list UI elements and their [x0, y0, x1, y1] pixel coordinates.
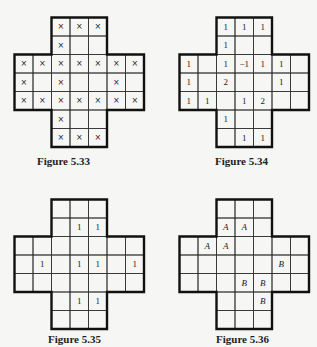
grid-cell-entry: × — [52, 73, 71, 92]
grid-cell-entry: × — [107, 55, 126, 74]
grid-cell-entry: 1 — [272, 73, 291, 92]
grid-cell-entry: × — [15, 55, 34, 74]
grid-cell-entry: B — [235, 274, 254, 293]
grid-cell-entry: 1 — [254, 129, 273, 148]
grid-cell-entry: B — [272, 255, 291, 274]
grid-cell-entry: × — [52, 110, 71, 129]
grid-cell-entry: × — [52, 36, 71, 55]
grid-cell-entry: 1 — [126, 255, 145, 274]
grid-cell-entry: 1 — [217, 36, 236, 55]
grid-cell-entry: × — [70, 18, 89, 37]
grid-cell-entry: 1 — [180, 73, 199, 92]
grid-cell-entry: 1 — [217, 18, 236, 37]
grid-cell-entry: × — [89, 92, 108, 111]
grid-cell-entry: 1 — [180, 55, 199, 74]
grid-cell-entry: × — [15, 73, 34, 92]
grid-cell-entry: 1 — [70, 292, 89, 311]
figure-caption: Figure 5.36 — [216, 333, 269, 345]
grid-cell-entry: 1 — [89, 255, 108, 274]
grid-cell-entry: 1 — [33, 255, 52, 274]
grid-cell-entry: 1 — [235, 18, 254, 37]
grid-cell-entry: 1 — [254, 18, 273, 37]
grid-cell-entry: A — [217, 237, 236, 256]
grid-cell-entry: × — [70, 55, 89, 74]
grid-cell-entry: × — [33, 92, 52, 111]
grid-cell-entry: A — [235, 218, 254, 237]
grid-cell-entry: 1 — [89, 292, 108, 311]
grid-cell-entry: × — [107, 92, 126, 111]
grid-cell-entry: × — [70, 92, 89, 111]
grid-cell-entry: 1 — [235, 92, 254, 111]
grid-cell-entry: × — [52, 55, 71, 74]
grid-cell-entry: × — [70, 129, 89, 148]
grid-cell-entry: × — [52, 92, 71, 111]
grid-cell-entry: 1 — [235, 129, 254, 148]
figure-caption: Figure 5.34 — [215, 155, 268, 167]
grid-cell-entry: × — [89, 18, 108, 37]
grid-cell-entry: 1 — [89, 218, 108, 237]
grid-cell-entry: 1 — [217, 55, 236, 74]
grid-cell-entry: 1 — [180, 92, 199, 111]
grid-cell-entry: × — [52, 129, 71, 148]
grid-cell-entry: 1 — [70, 218, 89, 237]
grid-cell-entry: A — [217, 218, 236, 237]
grid-cell-entry: × — [89, 55, 108, 74]
figure-caption: Figure 5.35 — [48, 333, 101, 345]
figure-caption: Figure 5.33 — [37, 155, 90, 167]
grid-cell-entry: A — [198, 237, 217, 256]
grid-cell-entry: 1 — [217, 110, 236, 129]
grid-cell-entry: 1 — [272, 55, 291, 74]
grid-cell-entry: × — [33, 55, 52, 74]
grid-cell-entry: 1 — [70, 255, 89, 274]
grid-cell-entry: × — [15, 92, 34, 111]
grid-cell-entry: −1 — [235, 55, 254, 74]
grid-cell-entry: B — [254, 292, 273, 311]
grid-cell-entry: 1 — [254, 55, 273, 74]
grid-cell-entry: × — [107, 73, 126, 92]
grid-cell-entry: × — [89, 129, 108, 148]
grid-cell-entry: B — [254, 274, 273, 293]
grid-cell-entry: × — [126, 92, 145, 111]
grid-cell-entry: 2 — [254, 92, 273, 111]
grid-cell-entry: × — [126, 55, 145, 74]
grid-cell-entry: 1 — [198, 92, 217, 111]
grid-cell-entry: × — [52, 18, 71, 37]
grid-cell-entry: 2 — [217, 73, 236, 92]
